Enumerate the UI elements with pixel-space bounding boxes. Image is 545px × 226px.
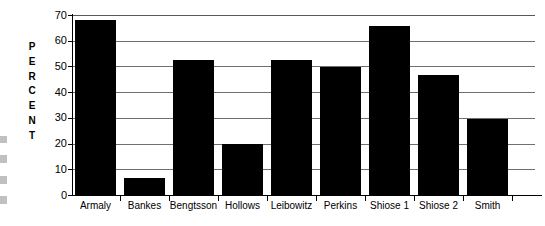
- y-tick-label: 10: [43, 164, 67, 175]
- bar-chart-figure: PERCENT 010203040506070 ArmalyBankesBeng…: [0, 0, 545, 226]
- y-axis-tick-labels: 010203040506070: [41, 15, 67, 195]
- y-tick-mark: [68, 41, 73, 42]
- y-tick-mark: [68, 195, 73, 196]
- x-axis-tick-labels: ArmalyBankesBengtssonHollowsLeibowitzPer…: [73, 200, 535, 216]
- y-tick-label: 0: [43, 190, 67, 201]
- y-tick-label: 70: [43, 10, 67, 21]
- x-tick-label: Shiose 2: [414, 200, 463, 212]
- x-tick-label: Bengtsson: [169, 200, 218, 212]
- gridline: [73, 41, 535, 42]
- y-axis-title-letter: C: [24, 84, 40, 99]
- y-tick-label: 40: [43, 87, 67, 98]
- bar: [124, 178, 165, 195]
- y-axis-title-letter: N: [24, 114, 40, 129]
- gridline: [73, 15, 535, 16]
- y-axis-title-letter: E: [24, 99, 40, 114]
- y-tick-label: 60: [43, 35, 67, 46]
- page-margin-fragment: [0, 136, 7, 143]
- bar: [320, 67, 361, 195]
- bar: [467, 119, 508, 195]
- x-tick-label: Hollows: [218, 200, 267, 212]
- y-tick-label: 30: [43, 112, 67, 123]
- y-tick-mark: [68, 144, 73, 145]
- y-tick-label: 50: [43, 61, 67, 72]
- y-axis-title-letter: E: [24, 55, 40, 70]
- y-tick-mark: [68, 15, 73, 16]
- x-tick-label: Bankes: [120, 200, 169, 212]
- x-tick-label: Perkins: [316, 200, 365, 212]
- bar: [418, 75, 459, 195]
- bar: [75, 20, 116, 195]
- x-tick-label: Shiose 1: [365, 200, 414, 212]
- y-tick-mark: [68, 118, 73, 119]
- page-margin-fragment: [0, 155, 7, 163]
- bar: [173, 60, 214, 195]
- y-tick-mark: [68, 92, 73, 93]
- page-margin-fragment: [0, 176, 7, 184]
- x-tick-label: Smith: [463, 200, 512, 212]
- x-tick-label: Leibowitz: [267, 200, 316, 212]
- plot-area: [73, 15, 535, 195]
- page-margin-fragment: [0, 196, 7, 204]
- y-axis-title-letter: T: [24, 129, 40, 144]
- y-axis-title-letter: P: [24, 40, 40, 55]
- bar: [369, 26, 410, 195]
- y-axis-title-letter: R: [24, 70, 40, 85]
- x-tick-label: Armaly: [71, 200, 120, 212]
- bar: [222, 144, 263, 195]
- bar: [271, 60, 312, 195]
- y-tick-mark: [68, 169, 73, 170]
- y-tick-mark: [68, 66, 73, 67]
- y-tick-label: 20: [43, 138, 67, 149]
- y-axis-title: PERCENT: [24, 40, 40, 144]
- x-axis-line: [72, 195, 542, 196]
